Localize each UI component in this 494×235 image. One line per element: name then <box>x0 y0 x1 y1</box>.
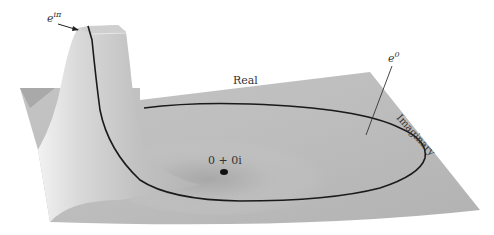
origin-marker <box>220 169 228 175</box>
surface-plot: eiπ e0 Real Imaginary 0 + 0i <box>0 0 494 235</box>
e-i-pi-label: eiπ <box>47 10 62 25</box>
origin-label: 0 + 0i <box>208 154 242 167</box>
e-zero-label: e0 <box>388 50 400 65</box>
real-axis-label: Real <box>233 74 258 87</box>
